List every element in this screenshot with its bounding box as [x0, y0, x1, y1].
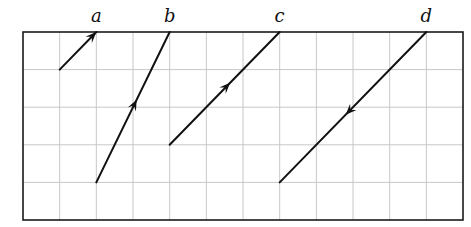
- vector-label-b: b: [164, 5, 176, 26]
- grid: [23, 32, 463, 220]
- vector-label-a: a: [91, 5, 102, 26]
- vector-c-line: [170, 32, 280, 145]
- vector-label-d: d: [421, 5, 433, 26]
- vector-label-c: c: [275, 5, 285, 26]
- vector-labels: abcd: [91, 5, 432, 26]
- vector-grid-diagram: abcd: [0, 0, 471, 227]
- vector-a-line: [60, 32, 97, 70]
